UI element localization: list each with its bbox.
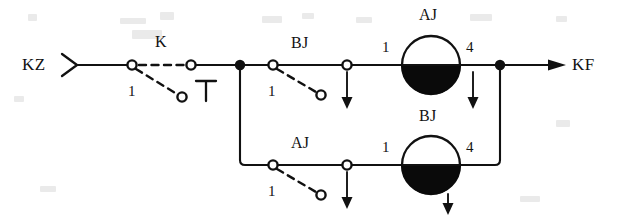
arrow-head [443, 203, 454, 215]
arrow-down-lower-right [443, 194, 454, 215]
switch-bj-upper [240, 60, 352, 99]
coil-aj [402, 36, 460, 94]
k-blade-dashed [136, 69, 177, 94]
label-bj-coil-pin-right: 4 [466, 140, 474, 155]
label-kz: KZ [22, 56, 45, 73]
label-aj-switch-pin: 1 [268, 184, 276, 199]
circuit-schematic-svg [0, 0, 618, 221]
aj-contact-right [342, 160, 351, 169]
circuit-diagram: KZ KF K 1 BJ 1 AJ 1 4 AJ 1 BJ 1 4 [0, 0, 618, 221]
label-kf: KF [572, 56, 595, 73]
label-coil-bj: BJ [419, 108, 437, 124]
switch-k [127, 60, 240, 101]
label-aj-coil-pin-right: 4 [466, 40, 474, 55]
output-terminal-kf [500, 60, 566, 71]
k-tee-terminal-icon [196, 81, 216, 101]
aj-coil-lower-half-fill [402, 65, 460, 94]
label-aj-coil-pin-left: 1 [382, 40, 390, 55]
label-switch-k: K [155, 34, 167, 50]
arrow-head [342, 197, 353, 209]
aj-blade-dashed [277, 169, 316, 192]
wire-left-bottom-corner [240, 160, 268, 165]
k-contact-lower [177, 92, 186, 101]
aj-contact-moving [316, 190, 325, 199]
label-bj-coil-pin-left: 1 [382, 140, 390, 155]
arrow-down-lower-left [342, 172, 353, 209]
arrow-down-upper-left [342, 72, 353, 109]
label-coil-aj: AJ [419, 7, 437, 23]
kf-terminal-arrow [548, 60, 566, 71]
label-bj-switch-pin: 1 [268, 84, 276, 99]
label-switch-aj-lower: AJ [291, 135, 309, 151]
label-switch-bj-upper: BJ [291, 35, 309, 51]
arrow-down-upper-right [468, 72, 479, 109]
input-terminal-kz [62, 54, 128, 76]
bj-blade-dashed [277, 69, 316, 92]
label-k-pin: 1 [128, 84, 136, 99]
kz-terminal-arrow [62, 54, 77, 76]
arrow-head [342, 97, 353, 109]
switch-aj-lower [268, 160, 351, 199]
arrow-head [468, 97, 479, 109]
wire-right-bottom-corner [461, 160, 500, 165]
coil-bj [402, 136, 460, 194]
bj-contact-right [342, 60, 351, 69]
bj-coil-lower-half-fill [402, 165, 460, 194]
k-contact-right [186, 60, 195, 69]
bj-contact-moving [316, 90, 325, 99]
